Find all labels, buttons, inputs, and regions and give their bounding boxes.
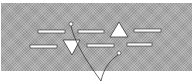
triangle-group [63,22,128,55]
dash-5 [87,44,114,47]
leader-line-group [71,26,118,81]
dash-1 [38,30,65,33]
marker-group [69,22,121,55]
leader-line-right [101,55,118,81]
dash-group [30,29,161,48]
triangle-up [110,22,128,37]
leader-line-left [71,26,101,81]
triangle-down [63,40,80,55]
diagram-canvas [0,0,193,83]
marker-circle-top [69,22,73,26]
dash-2 [78,30,104,33]
dash-6 [127,43,152,46]
dash-3 [134,29,161,32]
marker-circle-right [117,51,121,55]
dash-4 [30,45,57,48]
